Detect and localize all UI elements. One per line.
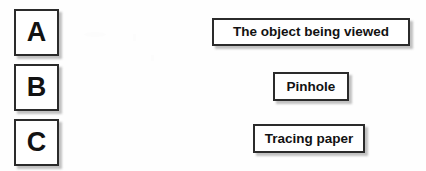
scan-artifact	[84, 32, 106, 37]
letter-tile-a-label: A	[27, 19, 47, 46]
label-plate-tracing-paper-text: Tracing paper	[265, 132, 354, 146]
letter-tile-a[interactable]: A	[14, 9, 59, 56]
label-plate-pinhole[interactable]: Pinhole	[273, 72, 349, 101]
letter-tile-b[interactable]: B	[14, 64, 59, 111]
letter-tile-c-label: C	[27, 129, 47, 156]
label-plate-object-being-viewed-text: The object being viewed	[233, 25, 389, 39]
scan-artifact	[151, 55, 154, 61]
letter-tile-c[interactable]: C	[14, 119, 59, 166]
label-plate-tracing-paper[interactable]: Tracing paper	[253, 124, 365, 153]
label-plate-object-being-viewed[interactable]: The object being viewed	[212, 18, 410, 46]
diagram-canvas: A B C The object being viewed Pinhole Tr…	[0, 0, 426, 171]
label-plate-pinhole-text: Pinhole	[287, 80, 336, 94]
scan-artifact	[133, 34, 136, 41]
letter-tile-b-label: B	[27, 74, 47, 101]
